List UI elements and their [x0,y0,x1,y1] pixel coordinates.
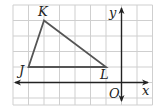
vertex-label-j: J [16,63,25,78]
origin-label: O [109,86,120,101]
vertex-label-l: L [99,67,109,82]
grid-lines [13,5,153,105]
axes [15,8,148,101]
coordinate-diagram: K J L O x y [0,0,160,109]
diagram-canvas: K J L O x y [0,0,160,109]
vertex-label-k: K [37,4,49,19]
x-axis-label: x [142,83,150,98]
triangle-jkl [29,21,107,68]
y-axis-label: y [108,5,117,20]
